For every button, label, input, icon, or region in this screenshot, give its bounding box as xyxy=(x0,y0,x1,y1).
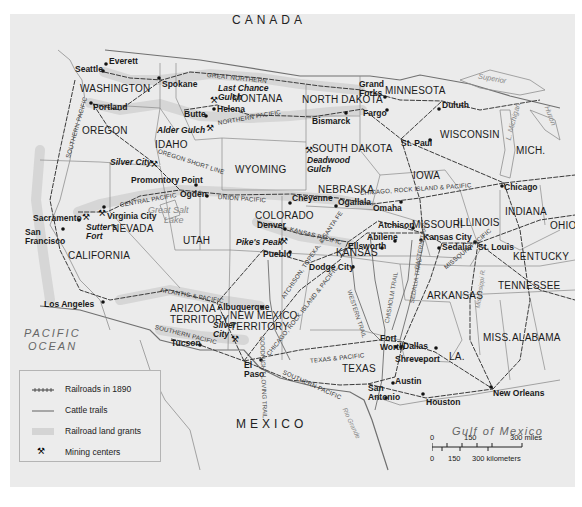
city-label-denver: Denver xyxy=(257,221,286,230)
city-label-san-antonio-2: Antonio xyxy=(368,393,400,402)
pick-axe-icon: ⚒ xyxy=(305,146,313,155)
mining-label-pikes-peak: Pike's Peak xyxy=(236,238,282,247)
railroad-line-icon xyxy=(32,387,54,393)
city-label-omaha: Omaha xyxy=(373,204,402,213)
city-label-new-orleans: New Orleans xyxy=(493,389,545,398)
ocean-label-pacific-2: OCEAN xyxy=(28,341,77,352)
city-label-cheyenne: Cheyenne xyxy=(292,194,333,203)
city-label-st-paul: St. Paul xyxy=(401,139,432,148)
state-label-la: LA. xyxy=(449,352,465,362)
pick-axe-icon: ⚒ xyxy=(210,96,218,105)
city-label-chicago: Chicago xyxy=(504,183,538,192)
legend-row-railroads: Railroads in 1890 xyxy=(20,383,160,397)
state-label-nevada: NEVADA xyxy=(112,224,154,234)
scale-miles-300: 300 miles xyxy=(510,433,542,442)
state-label-wyoming: WYOMING xyxy=(235,165,286,175)
city-label-albuquerque: Albuquerque xyxy=(217,303,269,312)
scale-miles-150: 150 xyxy=(464,433,477,442)
state-label-mich: MICH. xyxy=(516,146,545,156)
pick-axe-icon: ⚒ xyxy=(206,124,214,133)
state-label-minnesota: MINNESOTA xyxy=(385,86,446,96)
state-label-kentucky: KENTUCKY xyxy=(513,252,569,262)
legend-label: Mining centers xyxy=(65,447,120,457)
state-label-california: CALIFORNIA xyxy=(68,251,130,261)
state-label-miss: MISS. xyxy=(483,333,511,343)
state-label-utah: UTAH xyxy=(183,236,210,246)
state-label-tennessee: TENNESSEE xyxy=(498,281,560,291)
scale-km-150: 150 xyxy=(448,454,461,463)
trail-line-icon xyxy=(32,408,54,414)
lake-label-great-salt-lake-2: Lake xyxy=(164,216,184,225)
city-label-atchison: Atchison xyxy=(378,221,414,230)
scale-km-0: 0 xyxy=(430,454,434,463)
scale-ruler xyxy=(432,443,532,453)
city-label-st-louis: St. Louis xyxy=(478,243,514,252)
scale-miles-0: 0 xyxy=(430,433,434,442)
country-label-canada: CANADA xyxy=(232,14,306,26)
city-label-los-angeles: Los Angeles xyxy=(44,300,94,309)
state-label-new-mexico: NEW MEXICO xyxy=(230,311,298,321)
city-label-virginia-city: Virginia City xyxy=(107,212,156,221)
city-label-pueblo: Pueblo xyxy=(263,250,291,259)
city-label-fargo: Fargo xyxy=(363,109,387,118)
legend-row-mining: ⚒ Mining centers xyxy=(20,446,160,460)
city-label-ellsworth: Ellsworth xyxy=(348,242,386,251)
city-label-helena: Helena xyxy=(217,105,245,114)
pick-axe-icon: ⚒ xyxy=(98,209,106,218)
city-label-promontory-point: Promontory Point xyxy=(131,176,203,185)
city-label-grand-forks-2: Forks xyxy=(359,89,382,98)
city-label-ogallala: Ogallala xyxy=(338,198,371,207)
legend-label: Railroad land grants xyxy=(65,426,141,436)
pick-axe-icon: ⚒ xyxy=(231,335,239,344)
state-label-illinois: ILLINOIS xyxy=(457,218,500,228)
legend-row-land-grants: Railroad land grants xyxy=(20,425,160,439)
pick-axe-icon: ⚒ xyxy=(82,213,90,222)
state-label-arizona: ARIZONA xyxy=(170,304,216,314)
pick-axe-icon: ⚒ xyxy=(37,446,59,452)
city-label-bismarck: Bismarck xyxy=(312,117,350,126)
land-grant-swatch-icon xyxy=(32,428,54,435)
city-label-dallas: Dallas xyxy=(403,342,428,351)
city-label-austin: Austin xyxy=(395,377,421,386)
state-label-south-dakota: SOUTH DAKOTA xyxy=(312,144,393,154)
city-label-ogden: Ogden xyxy=(180,190,207,199)
mining-label-last-chance-gulch-2: Gulch xyxy=(218,93,242,102)
city-label-kansas-city: Kansas City xyxy=(423,233,472,242)
city-label-fort-worth-2: Worth xyxy=(380,343,404,352)
state-label-texas: TEXAS xyxy=(342,364,376,374)
state-label-indiana: INDIANA xyxy=(505,207,547,217)
state-label-alabama: ALABAMA xyxy=(512,333,561,343)
legend-label: Railroads in 1890 xyxy=(65,384,131,394)
city-label-san-francisco-2: Francisco xyxy=(25,237,65,246)
state-label-wisconsin: WISCONSIN xyxy=(440,130,500,140)
ocean-label-pacific: PACIFIC xyxy=(24,328,81,339)
legend-label: Cattle trails xyxy=(65,405,108,415)
scale-km-300: 300 kilometers xyxy=(472,454,521,463)
country-label-mexico: MEXICO xyxy=(236,418,307,430)
city-label-houston: Houston xyxy=(426,398,460,407)
state-label-iowa: IOWA xyxy=(413,171,440,181)
scale-bar: 0 150 300 miles 0 150 300 kilometers xyxy=(430,433,570,469)
legend-row-cattle-trails: Cattle trails xyxy=(20,404,160,418)
map-legend: Railroads in 1890 Cattle trails Railroad… xyxy=(19,370,161,462)
city-label-butte: Butte xyxy=(184,110,206,119)
city-label-seattle: Seattle xyxy=(75,65,103,74)
state-label-ohio: OHIO xyxy=(550,221,575,231)
mining-label-sutters-fort-2: Fort xyxy=(86,232,103,241)
city-label-spokane: Spokane xyxy=(162,80,197,89)
state-label-oregon: OREGON xyxy=(82,126,128,136)
city-label-everett: Everett xyxy=(109,57,138,66)
city-label-portland: Portland xyxy=(93,103,127,112)
mining-label-deadwood-gulch-2: Gulch xyxy=(307,165,331,174)
mining-label-silver-city-id: Silver City xyxy=(110,158,152,167)
mining-label-alder-gulch: Alder Gulch xyxy=(157,126,205,135)
state-label-washington: WASHINGTON xyxy=(80,84,150,94)
city-label-shreveport: Shreveport xyxy=(395,355,440,364)
city-label-sacramento: Sacramento xyxy=(33,214,82,223)
city-label-duluth: Duluth xyxy=(442,101,469,110)
